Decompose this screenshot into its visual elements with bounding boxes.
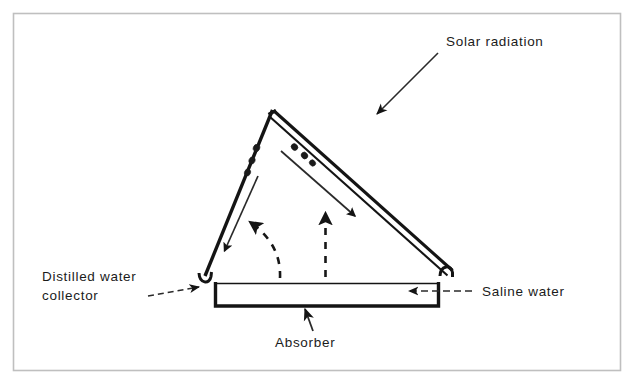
absorber-leader [305,309,313,331]
absorber-basin [216,282,439,306]
condensate-droplets-left [243,143,260,176]
diagram-canvas: Solar radiation Distilled water collecto… [0,0,634,386]
annotation-solar-radiation: Solar radiation [377,34,544,114]
figure-border [14,14,621,371]
solar-still-figure: Solar radiation Distilled water collecto… [0,0,634,386]
distilled-water-collector-leader [148,287,199,296]
evaporation-arrow-left [250,222,280,278]
distilled-water-collector-label-line1: Distilled water [42,269,137,284]
left-condensing-wall [205,110,273,276]
saline-water-label: Saline water [482,284,565,299]
solar-radiation-leader [377,53,438,114]
solar-radiation-label: Solar radiation [446,34,544,49]
annotation-absorber: Absorber [275,309,335,350]
annotation-distilled-water-collector: Distilled water collector [42,269,199,303]
annotation-saline-water: Saline water [409,284,565,299]
right-glass-cover [270,111,453,276]
apex-joint [269,111,277,115]
absorber-label: Absorber [275,335,335,350]
distilled-water-collector-label-line2: collector [42,288,99,303]
